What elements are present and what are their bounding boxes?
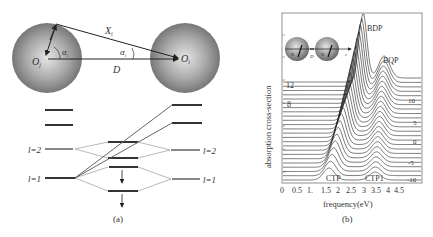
curve-label-5: 5 (413, 119, 417, 127)
svg-text:z: z (344, 52, 347, 57)
caption-a: (a) (113, 214, 123, 224)
label-left-l1: l=1 (28, 174, 41, 184)
panel-b: R D R z BDP BQP CTP CTP1 12 8 10 5 0 -5 … (263, 13, 422, 224)
curve-label-m5: -5 (408, 159, 414, 167)
spectra-curves (283, 14, 421, 180)
svg-text:0: 0 (280, 186, 284, 195)
x-axis-label: frequency(eV) (323, 199, 373, 209)
label-ctp1: CTP1 (365, 174, 384, 183)
label-left-l2: l=2 (28, 145, 42, 155)
left-sphere (12, 23, 82, 93)
svg-text:4: 4 (386, 186, 390, 195)
panel-a: Xi αi αi Oj Oi D (12, 23, 220, 224)
x-tick-labels: 0 0.5 1. 1.5 2 2.5 3 3.5 4 4.5 (280, 186, 404, 195)
energy-diagram (45, 105, 202, 207)
curve-label-10: 10 (408, 97, 416, 105)
svg-text:1.5: 1.5 (321, 186, 331, 195)
curve-label-8: 8 (287, 100, 291, 109)
curve-label-m10: -10 (407, 176, 417, 184)
caption-b: (b) (342, 214, 353, 224)
alpha-arc-right (132, 48, 134, 59)
figure-canvas: Xi αi αi Oj Oi D (0, 0, 433, 237)
label-ctp: CTP (326, 174, 341, 183)
label-right-l1: l=1 (203, 175, 216, 185)
svg-text:2.5: 2.5 (346, 186, 356, 195)
svg-text:0.5: 0.5 (292, 186, 302, 195)
svg-text:D: D (309, 54, 314, 59)
label-bdp: BDP (367, 24, 383, 33)
label-d: D (112, 64, 121, 75)
label-x-i: Xi (104, 25, 113, 37)
curve-label-0: 0 (413, 138, 417, 146)
y-axis-label: absorption cross-section (263, 85, 273, 168)
curve-label-12: 12 (286, 81, 294, 90)
label-right-l2: l=2 (203, 146, 217, 156)
svg-text:2: 2 (336, 186, 340, 195)
svg-text:1.: 1. (307, 186, 313, 195)
svg-text:3: 3 (362, 186, 366, 195)
svg-text:4.5: 4.5 (394, 186, 404, 195)
inset-dimer: R D R z (285, 37, 351, 61)
label-alpha-right: αi (120, 47, 127, 58)
label-bqp: BQP (383, 56, 399, 65)
svg-text:3.5: 3.5 (371, 186, 381, 195)
